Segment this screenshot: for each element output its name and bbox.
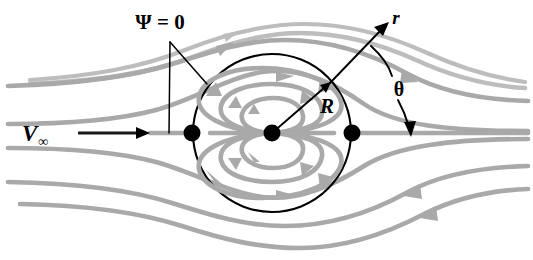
forward-stagnation-point-dot	[184, 125, 201, 142]
freestream-velocity-arrow	[78, 127, 150, 139]
psi-zero-label: Ψ = 0	[135, 10, 184, 34]
freestream-velocity-symbol: V	[22, 121, 39, 146]
angular-coordinate-label: θ	[394, 78, 404, 100]
radial-coordinate-label: r	[392, 7, 400, 28]
freestream-velocity-subscript: ∞	[38, 134, 48, 149]
cylinder-radius-label: R	[319, 94, 334, 118]
cylinder-flow-diagram: Ψ = 0 V∞ R r θ	[0, 0, 533, 260]
rear-stagnation-point-dot	[344, 125, 361, 142]
figure-container: Ψ = 0 V∞ R r θ	[0, 0, 533, 260]
